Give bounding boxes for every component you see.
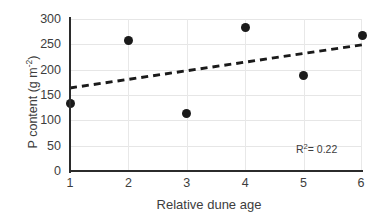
y-axis-title-exponent: -2 <box>24 60 34 68</box>
r-squared-annotation: R2= 0.22 <box>296 143 337 155</box>
x-axis-line <box>69 170 363 172</box>
y-tick-200: 200 <box>40 63 61 77</box>
y-tick-150: 150 <box>40 88 61 102</box>
x-tick-4: 4 <box>242 176 249 190</box>
trendline-path <box>70 45 362 88</box>
y-axis-title-suffix: ) <box>26 56 40 60</box>
y-tick-250: 250 <box>40 37 61 51</box>
x-tick-6: 6 <box>358 176 365 190</box>
data-point-4 <box>241 23 250 32</box>
y-axis-line <box>69 17 71 173</box>
y-tick-100: 100 <box>40 113 61 127</box>
y-tick-50: 50 <box>47 139 61 153</box>
r-squared-value: = 0.22 <box>308 143 338 155</box>
x-tick-2: 2 <box>125 176 132 190</box>
scatter-plot-figure: R2= 0.22 0 50 100 150 200 250 300 1 2 3 … <box>0 0 374 223</box>
y-axis-title: P content (g m-2) <box>26 22 40 182</box>
x-tick-3: 3 <box>183 176 190 190</box>
data-point-2 <box>124 36 133 45</box>
y-tick-0: 0 <box>54 164 61 178</box>
x-tick-1: 1 <box>67 176 74 190</box>
r-squared-prefix: R <box>296 143 304 155</box>
x-tick-5: 5 <box>300 176 307 190</box>
x-axis-title: Relative dune age <box>0 197 374 212</box>
y-axis-title-prefix: P content (g m <box>26 67 40 148</box>
data-point-6 <box>358 31 367 40</box>
y-tick-300: 300 <box>40 12 61 26</box>
data-point-3 <box>182 109 191 118</box>
